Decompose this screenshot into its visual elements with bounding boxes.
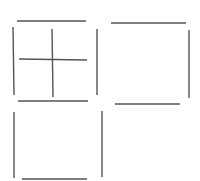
diagram-canvas xyxy=(0,0,200,181)
top-right-square xyxy=(111,23,189,98)
top-left-square-with-cross-cross-vertical xyxy=(52,29,53,97)
bottom-left-square xyxy=(14,101,102,179)
line-diagram xyxy=(0,0,200,181)
top-left-square-with-cross xyxy=(13,21,97,97)
top-left-square-with-cross-left-edge xyxy=(13,27,14,95)
